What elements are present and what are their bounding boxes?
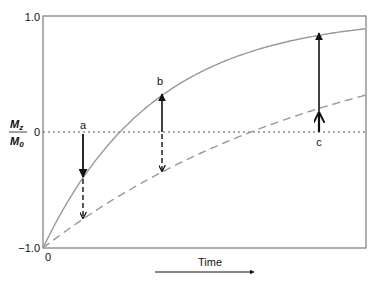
svg-text:M0: M0 — [10, 135, 24, 149]
marker-b: b — [157, 75, 163, 171]
svg-text:a: a — [80, 119, 87, 131]
y-tick-minus1: −1.0 — [18, 242, 40, 254]
dashed-recovery-curve — [43, 95, 365, 248]
x-axis-label: Time — [198, 256, 222, 268]
y-tick-0: 0 — [34, 126, 40, 138]
recovery-diagram: 1.0 0 −1.0 Mz M0 0 Time a b c — [0, 0, 379, 285]
x-origin-label: 0 — [45, 251, 51, 263]
y-axis-label: Mz M0 — [9, 118, 27, 149]
marker-c: c — [316, 33, 322, 148]
svg-text:b: b — [157, 75, 163, 87]
svg-text:c: c — [316, 136, 322, 148]
marker-a: a — [80, 119, 87, 218]
y-tick-1: 1.0 — [25, 11, 40, 23]
svg-text:Mz: Mz — [10, 118, 23, 132]
